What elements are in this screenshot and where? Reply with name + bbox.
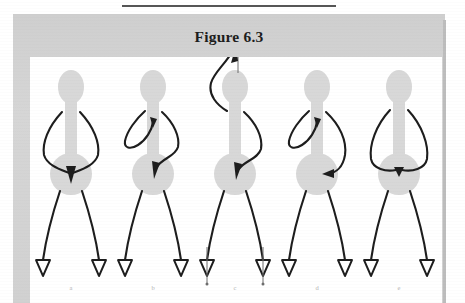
figure-e: e (358, 57, 440, 303)
figure-a: a (30, 57, 112, 303)
figure-d: d (276, 57, 358, 303)
figure-caption-band: Figure 6.3 (13, 14, 445, 56)
figure-c-drawing (194, 57, 276, 303)
feet-b (118, 260, 188, 276)
plate-edge-shadow (443, 20, 446, 303)
figure-page: Figure 6.3 (0, 0, 465, 303)
figure-c: c (194, 57, 276, 303)
body-silhouette-b (132, 70, 174, 195)
feet-a (36, 260, 106, 276)
drawing-panel: a (30, 57, 442, 303)
figure-c-label: c (194, 284, 276, 291)
page-title: Figure 6.3 (13, 28, 445, 46)
figure-b-label: b (112, 284, 194, 291)
figure-d-drawing (276, 57, 358, 303)
figure-e-label: e (358, 284, 440, 291)
figure-b-drawing (112, 57, 194, 303)
foot-tick-lines-c (207, 247, 263, 285)
feet-e (364, 260, 434, 276)
figure-d-label: d (276, 284, 358, 291)
feet-c (200, 260, 270, 276)
figure-a-drawing (30, 57, 112, 303)
top-rule-divider (122, 5, 336, 7)
figure-e-drawing (358, 57, 440, 303)
head-arrowhead-c (231, 57, 238, 63)
feet-d (282, 260, 352, 276)
figure-b: b (112, 57, 194, 303)
figure-a-label: a (30, 284, 112, 291)
body-silhouette-c (214, 70, 256, 195)
figure-row: a (30, 57, 442, 303)
